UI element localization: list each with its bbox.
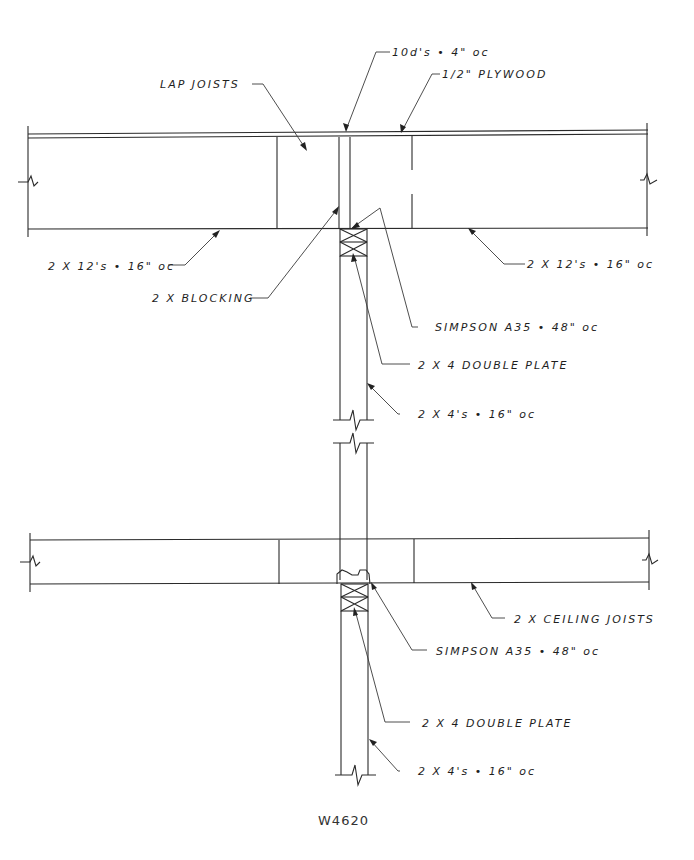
lap-joists-label: LAP JOISTS [160,78,240,91]
plate-upper-label: 2 X 4 DOUBLE PLATE [418,359,568,372]
joists-right-label: 2 X 12's • 16" oc [527,258,654,271]
stud-break-bottom-icon [333,433,374,453]
joists-left-label: 2 X 12's • 16" oc [48,260,175,273]
blocking-label: 2 X BLOCKING [152,292,254,305]
nails-label: 10d's • 4" oc [392,46,490,59]
plywood-top-line [28,130,648,134]
framing-detail-drawing: 10d's • 4" oc 1/2" PLYWOOD LAP JOISTS 2 … [0,0,694,860]
ceiling-leaders [353,582,505,771]
ceiling-right-break-icon [642,554,658,564]
studs-ceiling-label: 2 X 4's • 16" oc [418,765,536,778]
plate-ceiling-label: 2 X 4 DOUBLE PLATE [422,717,572,730]
plate-cross-1 [340,229,367,242]
ceiling-joist-bottom [30,582,649,584]
stud-break-top-icon [333,410,374,430]
plate-cross-2 [340,242,367,256]
plywood-label: 1/2" PLYWOOD [442,68,547,81]
ceiling-plate-cross-1 [341,584,368,597]
right-break-icon [640,174,657,184]
clip-ceiling-label: SIMPSON A35 • 48" oc [436,645,600,658]
clip-upper-label: SIMPSON A35 • 48" oc [435,321,599,334]
ceiling-joists-label: 2 X CEILING JOISTS [514,613,655,626]
joist-bottom-line [28,228,648,229]
drawing-id: W4620 [318,813,369,828]
upper-floor-assembly [18,123,657,453]
simpson-clip-icon [337,570,370,584]
plywood-bottom-line [28,134,648,138]
studs-upper-label: 2 X 4's • 16" oc [418,408,536,421]
